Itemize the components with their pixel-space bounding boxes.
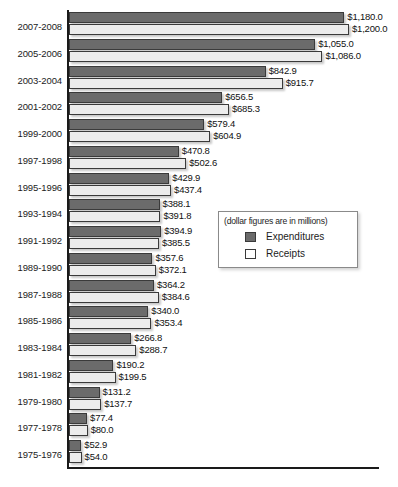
- chart-row: 1985-1986$340.0$353.4: [0, 306, 398, 329]
- bar-value-label: $137.7: [104, 398, 132, 409]
- category-label: 2005-2006: [0, 48, 62, 59]
- chart-row: 1975-1976$52.9$54.0: [0, 440, 398, 463]
- category-label: 1991-1992: [0, 235, 62, 246]
- bar-value-label: $340.0: [151, 305, 179, 316]
- bar-value-label: $1,055.0: [318, 38, 353, 49]
- bar-value-label: $437.4: [174, 184, 202, 195]
- bar-group-expenditures: $52.9: [69, 440, 151, 451]
- category-label: 1979-1980: [0, 396, 62, 407]
- bar-value-label: $80.0: [91, 424, 114, 435]
- category-label: 2007-2008: [0, 21, 62, 32]
- chart-legend: (dollar figures are in millions) Expendi…: [218, 211, 358, 268]
- bar-value-label: $372.1: [159, 264, 187, 275]
- chart-row: 2001-2002$656.5$685.3: [0, 92, 398, 115]
- bar-group-receipts: $199.5: [69, 372, 186, 383]
- bar-value-label: $77.4: [90, 412, 113, 423]
- bar-expenditures: [69, 440, 81, 451]
- bar-group-expenditures: $470.8: [69, 146, 249, 157]
- bar-value-label: $266.8: [134, 332, 162, 343]
- bar-value-label: $604.9: [213, 130, 241, 141]
- category-label: 1983-1984: [0, 342, 62, 353]
- chart-row: 1987-1988$364.2$384.6: [0, 280, 398, 303]
- bar-expenditures: [69, 413, 87, 424]
- bar-expenditures: [69, 360, 113, 371]
- bar-value-label: $1,180.0: [347, 11, 382, 22]
- category-label: 1981-1982: [0, 369, 62, 380]
- bar-value-label: $364.2: [157, 279, 185, 290]
- bar-value-label: $579.4: [207, 118, 235, 129]
- bar-expenditures: [69, 280, 154, 291]
- bar-group-receipts: $502.6: [69, 158, 256, 169]
- bar-receipts: [69, 372, 116, 383]
- bar-receipts: [69, 24, 349, 35]
- bar-group-receipts: $384.6: [69, 292, 229, 303]
- receipts-swatch: [245, 249, 256, 259]
- chart-row: 1997-1998$470.8$502.6: [0, 146, 398, 169]
- bar-group-expenditures: $1,180.0: [69, 12, 398, 23]
- bar-group-receipts: $604.9: [69, 131, 280, 142]
- bar-receipts: [69, 78, 283, 89]
- bar-group-receipts: $80.0: [69, 425, 158, 436]
- bar-group-expenditures: $77.4: [69, 413, 157, 424]
- bar-group-expenditures: $131.2: [69, 387, 170, 398]
- legend-label-expenditures: Expenditures: [266, 231, 324, 242]
- bar-receipts: [69, 185, 171, 196]
- bar-value-label: $656.5: [225, 91, 253, 102]
- category-label: 1997-1998: [0, 155, 62, 166]
- bar-value-label: $199.5: [119, 371, 147, 382]
- bar-value-label: $54.0: [85, 451, 108, 462]
- bar-receipts: [69, 425, 88, 436]
- expenditures-swatch: [245, 232, 256, 242]
- chart-row: 1977-1978$77.4$80.0: [0, 413, 398, 436]
- bar-receipts: [69, 345, 136, 356]
- bar-receipts: [69, 238, 159, 249]
- bar-value-label: $131.2: [103, 386, 131, 397]
- bar-group-expenditures: $1,055.0: [69, 39, 385, 50]
- bar-value-label: $842.9: [269, 65, 297, 76]
- bar-group-expenditures: $357.6: [69, 253, 222, 264]
- bar-receipts: [69, 399, 101, 410]
- chart-row: 1995-1996$429.9$437.4: [0, 173, 398, 196]
- bar-group-receipts: $288.7: [69, 345, 206, 356]
- bar-receipts: [69, 265, 156, 276]
- bar-group-receipts: $372.1: [69, 265, 226, 276]
- category-label: 1987-1988: [0, 289, 62, 300]
- bar-value-label: $391.8: [163, 210, 191, 221]
- bar-expenditures: [69, 12, 344, 23]
- category-label: 1975-1976: [0, 449, 62, 460]
- bar-expenditures: [69, 199, 160, 210]
- bar-value-label: $915.7: [286, 77, 314, 88]
- bar-receipts: [69, 158, 186, 169]
- bar-group-receipts: $353.4: [69, 318, 221, 329]
- bar-receipts: [69, 104, 229, 115]
- bar-value-label: $357.6: [155, 252, 183, 263]
- bar-group-expenditures: $429.9: [69, 173, 239, 184]
- bar-value-label: $502.6: [189, 157, 217, 168]
- bar-receipts: [69, 51, 322, 62]
- bar-value-label: $429.9: [172, 172, 200, 183]
- bar-group-expenditures: $190.2: [69, 360, 183, 371]
- bar-group-receipts: $391.8: [69, 211, 230, 222]
- category-axis-line: [67, 467, 379, 469]
- bar-value-label: $394.9: [164, 225, 192, 236]
- bar-expenditures: [69, 92, 222, 103]
- bar-group-expenditures: $340.0: [69, 306, 218, 317]
- bar-group-receipts: $1,200.0: [69, 24, 398, 35]
- bar-group-expenditures: $266.8: [69, 333, 201, 344]
- bar-expenditures: [69, 226, 161, 237]
- chart-row: 1981-1982$190.2$199.5: [0, 360, 398, 383]
- category-label: 1993-1994: [0, 208, 62, 219]
- category-label: 2003-2004: [0, 75, 62, 86]
- bar-value-label: $385.5: [162, 237, 190, 248]
- bar-receipts: [69, 131, 210, 142]
- bar-receipts: [69, 211, 160, 222]
- bar-group-expenditures: $656.5: [69, 92, 292, 103]
- chart-row: 2003-2004$842.9$915.7: [0, 66, 398, 89]
- bar-receipts: [69, 292, 159, 303]
- bar-group-receipts: $1,086.0: [69, 51, 392, 62]
- bar-expenditures: [69, 253, 152, 264]
- bar-chart: 2007-2008$1,180.0$1,200.02005-2006$1,055…: [0, 0, 398, 487]
- category-label: 1995-1996: [0, 182, 62, 193]
- bar-value-label: $384.6: [162, 291, 190, 302]
- bar-group-receipts: $137.7: [69, 399, 171, 410]
